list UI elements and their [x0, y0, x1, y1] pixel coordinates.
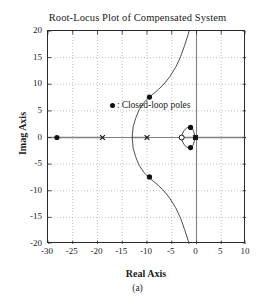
- marker-closed-loop-pole: [147, 94, 152, 99]
- x-tick-label: -20: [91, 246, 103, 256]
- x-tick-label: -15: [115, 246, 127, 256]
- x-tick-label: -30: [41, 246, 53, 256]
- x-tick-label: -25: [66, 246, 78, 256]
- y-tick-label: 15: [0, 52, 42, 62]
- y-tick-label: -5: [0, 158, 42, 168]
- legend: : Closed-loop poles: [110, 100, 191, 110]
- root-locus-figure: Root-Locus Plot of Compensated System : …: [0, 0, 275, 302]
- x-tick-label: -10: [140, 246, 152, 256]
- marker-closed-loop-pole: [188, 125, 193, 130]
- x-tick-label: -5: [167, 246, 175, 256]
- marker-open-loop-zero: [179, 135, 184, 140]
- closed-loop-pole-marker-icon: [110, 103, 115, 108]
- y-tick-label: 10: [0, 78, 42, 88]
- y-tick-label: -10: [0, 185, 42, 195]
- legend-label: Closed-loop poles: [122, 100, 191, 110]
- y-tick-label: 5: [0, 105, 42, 115]
- plot-area: : Closed-loop poles: [47, 30, 245, 243]
- page-title: Root-Locus Plot of Compensated System: [0, 12, 275, 23]
- marker-closed-loop-pole: [188, 145, 193, 150]
- y-tick-label: -20: [0, 238, 42, 248]
- x-tick-label: 0: [193, 246, 198, 256]
- y-tick-label: 20: [0, 25, 42, 35]
- marker-closed-loop-pole: [54, 135, 59, 140]
- figure-caption: (a): [0, 283, 275, 293]
- marker-closed-loop-pole: [193, 135, 198, 140]
- plot-canvas: [48, 31, 246, 244]
- legend-separator: :: [117, 100, 120, 110]
- y-tick-label: 0: [0, 132, 42, 142]
- x-axis-title: Real Axis: [47, 268, 245, 279]
- y-tick-label: -15: [0, 211, 42, 221]
- marker-closed-loop-pole: [147, 174, 152, 179]
- x-tick-label: 5: [218, 246, 223, 256]
- x-tick-label: 10: [241, 246, 250, 256]
